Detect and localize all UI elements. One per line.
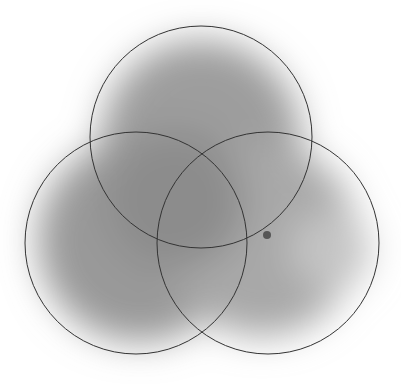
marker-dot bbox=[263, 231, 271, 239]
shading-blob bbox=[38, 40, 370, 342]
venn-diagram-svg bbox=[0, 0, 401, 385]
shade-right-fade bbox=[290, 210, 370, 290]
venn-diagram bbox=[0, 0, 401, 385]
shade-core bbox=[105, 130, 245, 270]
